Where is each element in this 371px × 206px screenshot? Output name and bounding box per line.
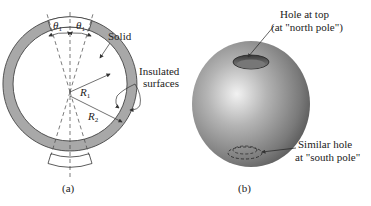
caption-b: (b) [238, 182, 251, 195]
r1-arrow [70, 74, 110, 92]
bottom-hole-label-line2: at "south pole" [295, 151, 360, 163]
top-hole-inner [237, 60, 265, 69]
figure-a-shell-cross-section: θ1 θ1 Solid R1 R2 Insulated surfaces (a) [3, 12, 180, 195]
top-hole-label-line2: (at "north pole") [271, 21, 343, 34]
bottom-hole-label-line1: Similar hole [298, 138, 352, 150]
r1-label: R1 [79, 86, 91, 100]
figure-b-sphere: Hole at top (at "north pole") Similar ho… [192, 8, 360, 195]
insulated-label-line1: Insulated [139, 65, 180, 77]
r2-label: R2 [87, 110, 99, 124]
solid-leader [100, 43, 110, 58]
figure-canvas: θ1 θ1 Solid R1 R2 Insulated surfaces (a)… [0, 0, 371, 206]
top-hole-label-line1: Hole at top [280, 8, 329, 20]
theta-arc-right [71, 33, 91, 36]
solid-label: Solid [108, 30, 132, 42]
theta-arc-left [49, 33, 69, 36]
caption-a: (a) [62, 182, 75, 195]
insulated-label-line2: surfaces [143, 77, 179, 89]
